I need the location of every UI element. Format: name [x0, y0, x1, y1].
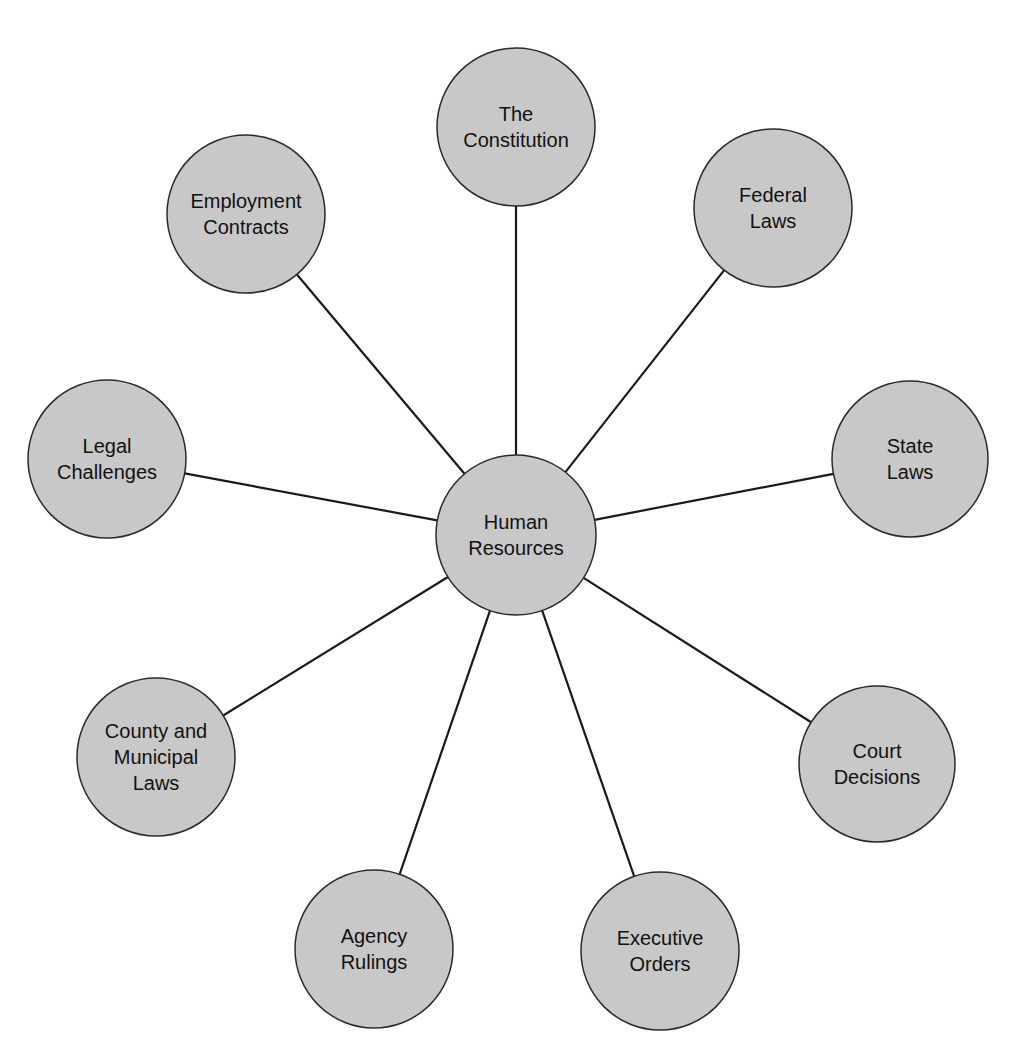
node-label: Laws	[750, 210, 797, 232]
node-label: Challenges	[57, 461, 157, 483]
node-circle	[437, 48, 595, 206]
connector-county-and-municipal-laws	[223, 577, 448, 716]
node-circle	[436, 455, 596, 615]
node-legal-challenges: LegalChallenges	[28, 380, 186, 538]
node-label: Employment	[190, 190, 302, 212]
connector-legal-challenges	[185, 473, 438, 520]
node-label: Agency	[341, 925, 408, 947]
connector-executive-orders	[542, 611, 634, 877]
node-circle	[28, 380, 186, 538]
node-label: Court	[853, 740, 902, 762]
connector-employment-contracts	[297, 275, 465, 474]
node-county-and-municipal-laws: County andMunicipalLaws	[77, 678, 235, 836]
node-state-laws: StateLaws	[832, 381, 988, 537]
node-label: Laws	[887, 461, 934, 483]
node-label: Constitution	[463, 129, 569, 151]
node-federal-laws: FederalLaws	[694, 129, 852, 287]
node-label: State	[887, 435, 934, 457]
connector-state-laws	[595, 474, 834, 520]
hub-node-human-resources: HumanResources	[436, 455, 596, 615]
node-label: Human	[484, 511, 548, 533]
node-label: Contracts	[203, 216, 289, 238]
node-circle	[694, 129, 852, 287]
nodes: TheConstitutionFederalLawsStateLawsCourt…	[28, 48, 988, 1030]
node-circle	[581, 872, 739, 1030]
node-executive-orders: ExecutiveOrders	[581, 872, 739, 1030]
node-circle	[832, 381, 988, 537]
node-the-constitution: TheConstitution	[437, 48, 595, 206]
node-agency-rulings: AgencyRulings	[295, 870, 453, 1028]
connector-agency-rulings	[400, 611, 490, 875]
node-label: Legal	[83, 435, 132, 457]
node-circle	[295, 870, 453, 1028]
node-label: Resources	[468, 537, 564, 559]
node-label: Laws	[133, 772, 180, 794]
node-employment-contracts: EmploymentContracts	[167, 135, 325, 293]
connector-federal-laws	[565, 270, 724, 472]
node-label: Orders	[629, 953, 690, 975]
node-circle	[167, 135, 325, 293]
node-court-decisions: CourtDecisions	[799, 686, 955, 842]
node-label: Federal	[739, 184, 807, 206]
node-label: Municipal	[114, 746, 198, 768]
node-label: Decisions	[834, 766, 921, 788]
node-label: The	[499, 103, 533, 125]
hub-spoke-diagram: TheConstitutionFederalLawsStateLawsCourt…	[0, 0, 1024, 1053]
node-label: County and	[105, 720, 207, 742]
node-circle	[799, 686, 955, 842]
node-label: Rulings	[341, 951, 408, 973]
node-label: Executive	[617, 927, 704, 949]
connector-court-decisions	[584, 578, 812, 722]
